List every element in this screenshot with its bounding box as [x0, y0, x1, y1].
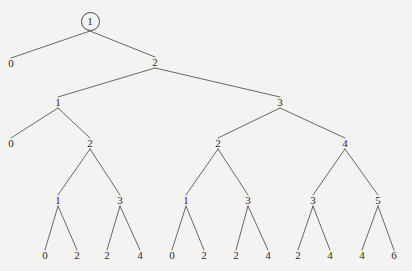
- tree-internal-node: 1: [183, 195, 189, 206]
- tree-edge: [90, 31, 155, 57]
- tree-edge: [120, 206, 140, 250]
- recursion-tree-diagram: 102130224131335022402242446: [0, 0, 412, 271]
- tree-edge: [236, 206, 248, 250]
- tree-leaf-node: 2: [74, 250, 80, 261]
- tree-edge: [58, 149, 90, 195]
- tree-leaf-node: 4: [265, 250, 271, 261]
- tree-leaf-node: 2: [233, 250, 239, 261]
- tree-leaf-node: 0: [42, 250, 48, 261]
- tree-internal-node: 1: [55, 97, 61, 108]
- tree-edge: [345, 149, 378, 195]
- tree-leaf-node: 4: [137, 250, 143, 261]
- tree-internal-node: 3: [310, 195, 316, 206]
- tree-internal-node: 2: [87, 138, 93, 149]
- tree-edge: [107, 206, 120, 250]
- tree-leaf-node: 2: [201, 250, 207, 261]
- tree-internal-node: 2: [215, 138, 221, 149]
- tree-leaf-node: 0: [169, 250, 175, 261]
- tree-leaf-node: 0: [8, 58, 14, 69]
- tree-edge: [155, 68, 280, 97]
- tree-leaf-node: 2: [295, 250, 301, 261]
- tree-leaf-node: 4: [359, 250, 365, 261]
- tree-leaf-node: 0: [8, 138, 14, 149]
- tree-edge: [313, 206, 330, 250]
- tree-root-node: 1: [87, 16, 93, 27]
- tree-leaf-node: 4: [327, 250, 333, 261]
- tree-edge: [378, 206, 394, 250]
- tree-edge: [58, 68, 155, 97]
- tree-edge: [218, 108, 280, 138]
- tree-internal-node: 5: [375, 195, 381, 206]
- tree-edge: [58, 108, 90, 138]
- tree-edge: [186, 149, 218, 195]
- tree-edge: [186, 206, 204, 250]
- tree-edge: [362, 206, 378, 250]
- tree-internal-node: 3: [245, 195, 251, 206]
- tree-edge: [172, 206, 186, 250]
- tree-edges-canvas: [0, 0, 412, 271]
- tree-edge: [218, 149, 248, 195]
- tree-internal-node: 3: [277, 97, 283, 108]
- tree-internal-node: 1: [55, 195, 61, 206]
- tree-edge: [90, 149, 120, 195]
- edges-group: [11, 31, 394, 250]
- tree-edge: [11, 108, 58, 138]
- tree-edge: [45, 206, 58, 250]
- tree-edge: [58, 206, 77, 250]
- tree-edge: [298, 206, 313, 250]
- tree-internal-node: 3: [117, 195, 123, 206]
- tree-edge: [11, 31, 90, 58]
- tree-edge: [248, 206, 268, 250]
- tree-leaf-node: 6: [391, 250, 397, 261]
- tree-internal-node: 2: [152, 57, 158, 68]
- tree-internal-node: 4: [342, 138, 348, 149]
- tree-edge: [280, 108, 345, 138]
- tree-leaf-node: 2: [104, 250, 110, 261]
- tree-edge: [313, 149, 345, 195]
